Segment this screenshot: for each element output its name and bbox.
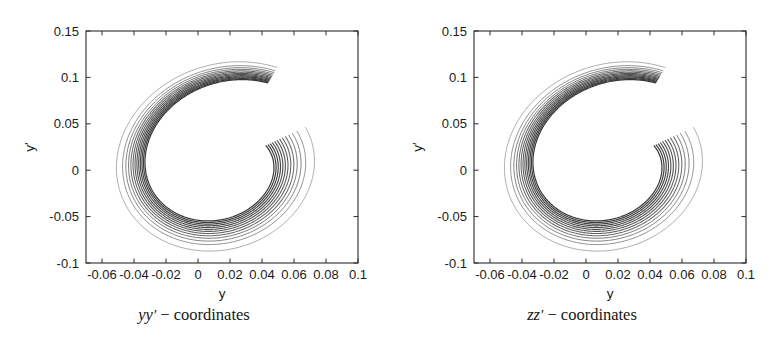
x-tick-label: -0.02 — [151, 267, 181, 282]
trajectory-curve — [143, 79, 276, 223]
x-tick-label: 0.06 — [281, 267, 306, 282]
y-tick-label: 0 — [460, 163, 467, 178]
trajectory-bundle — [116, 62, 314, 251]
caption-zz-prime: zz′ − coordinates — [388, 305, 776, 325]
y-tick-label: 0 — [72, 163, 79, 178]
x-axis-title: y — [607, 286, 614, 301]
x-tick-label: 0.1 — [349, 267, 367, 282]
x-tick-label: 0.02 — [605, 267, 630, 282]
panel-zz-prime: -0.06-0.04-0.0200.020.040.060.080.1-0.1-… — [388, 0, 776, 347]
plot-yy-prime: -0.06-0.04-0.0200.020.040.060.080.1-0.1-… — [0, 0, 388, 347]
x-tick-label: -0.04 — [119, 267, 149, 282]
x-tick-label: 0.04 — [637, 267, 662, 282]
x-tick-label: 0.06 — [669, 267, 694, 282]
y-tick-label: -0.1 — [445, 256, 467, 271]
x-tick-label: 0.02 — [217, 267, 242, 282]
caption-prime: ′ — [540, 307, 543, 323]
x-tick-label: -0.06 — [87, 267, 117, 282]
x-axis-title: y — [219, 286, 226, 301]
y-tick-label: 0.05 — [54, 116, 79, 131]
y-tick-label: -0.05 — [49, 209, 79, 224]
y-axis-title: y′ — [22, 142, 37, 152]
trajectory-curve — [531, 79, 664, 223]
trajectory-curve — [527, 76, 671, 228]
trajectory-bundle — [504, 62, 702, 251]
x-tick-label: -0.04 — [507, 267, 537, 282]
y-tick-label: -0.05 — [437, 209, 467, 224]
y-tick-label: 0.1 — [61, 70, 79, 85]
caption-dash: − — [547, 305, 556, 324]
y-tick-label: 0.05 — [442, 116, 467, 131]
caption-prime: ′ — [153, 307, 156, 323]
x-tick-label: -0.02 — [539, 267, 569, 282]
x-tick-label: 0.1 — [737, 267, 755, 282]
caption-symbol: yy — [138, 305, 153, 324]
x-tick-label: 0 — [582, 267, 589, 282]
y-tick-label: 0.15 — [54, 24, 79, 39]
caption-yy-prime: yy′ − coordinates — [0, 305, 388, 325]
x-tick-label: 0.08 — [701, 267, 726, 282]
y-tick-label: -0.1 — [57, 256, 79, 271]
caption-word: coordinates — [561, 305, 637, 324]
y-tick-label: 0.1 — [449, 70, 467, 85]
x-tick-label: 0 — [194, 267, 201, 282]
caption-word: coordinates — [174, 305, 250, 324]
plot-zz-prime: -0.06-0.04-0.0200.020.040.060.080.1-0.1-… — [388, 0, 776, 347]
x-tick-label: -0.06 — [475, 267, 505, 282]
caption-symbol: zz — [527, 305, 540, 324]
figure-root: -0.06-0.04-0.0200.020.040.060.080.1-0.1-… — [0, 0, 776, 347]
y-axis-title: y′ — [410, 142, 425, 152]
caption-dash: − — [160, 305, 169, 324]
x-tick-label: 0.04 — [249, 267, 274, 282]
trajectory-curve — [139, 76, 283, 228]
y-tick-label: 0.15 — [442, 24, 467, 39]
panel-yy-prime: -0.06-0.04-0.0200.020.040.060.080.1-0.1-… — [0, 0, 388, 347]
x-tick-label: 0.08 — [313, 267, 338, 282]
